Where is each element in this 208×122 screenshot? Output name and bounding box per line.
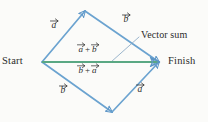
- edge-label-bottom-right-vector-a: a: [137, 85, 143, 95]
- vector-addition-figure: Start Finish Vector sum a b b a a+b b+a: [0, 0, 208, 122]
- finish-label: Finish: [168, 56, 195, 67]
- edge-label-top-left-vector-a: a: [51, 21, 57, 31]
- resultant-expression-above: a+b: [78, 45, 97, 54]
- resultant-above-second-letter: b: [92, 45, 97, 54]
- vector-sum-leader-line: [111, 37, 139, 62]
- resultant-below-second-letter: a: [92, 66, 97, 75]
- resultant-above-operator: +: [84, 44, 92, 54]
- resultant-below-first-letter: b: [79, 66, 84, 75]
- resultant-expression-below: b+a: [78, 66, 97, 75]
- edge-label-bottom-right-letter: a: [138, 85, 143, 95]
- vector-sum-annotation-label: Vector sum: [141, 30, 187, 40]
- edge-start-to-top-vector-a: [42, 11, 85, 62]
- edge-start-to-bottom-vector-b: [42, 62, 112, 112]
- edge-label-bottom-left-vector-b: b: [60, 86, 66, 96]
- edge-label-top-right-vector-b: b: [123, 15, 129, 25]
- edge-label-top-left-letter: a: [52, 21, 57, 31]
- resultant-above-first-letter: a: [79, 45, 84, 54]
- edge-bottom-to-finish-vector-a: [112, 62, 159, 112]
- edge-label-bottom-left-letter: b: [61, 86, 66, 96]
- edge-label-top-right-letter: b: [124, 15, 129, 25]
- start-label: Start: [2, 56, 23, 67]
- resultant-below-operator: +: [84, 65, 92, 75]
